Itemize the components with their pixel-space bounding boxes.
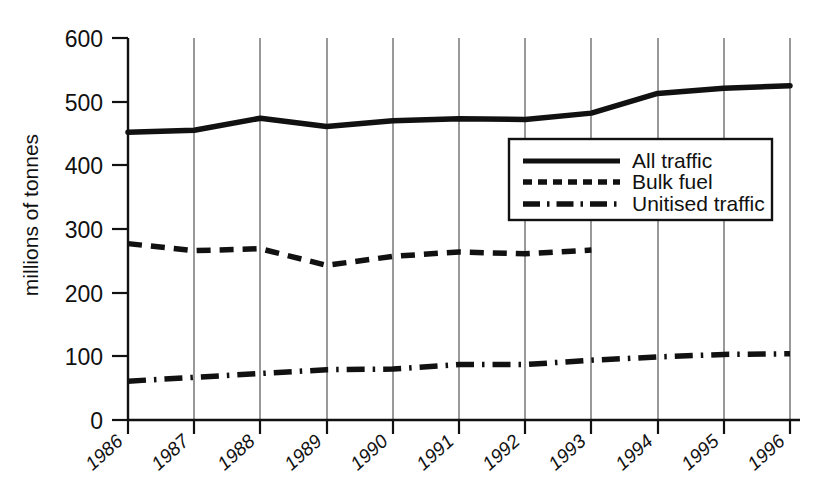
chart-canvas: 600 500 400 300 200 100 0 1986 1987 1 (0, 0, 825, 492)
x-tick-label-1993: 1993 (544, 430, 590, 474)
x-tick-labels: 1986 1987 1988 1989 1990 1991 1992 1993 … (81, 429, 789, 474)
x-tick-label-1988: 1988 (213, 430, 259, 474)
legend-label-all-traffic: All traffic (632, 149, 712, 172)
x-tick-marks (128, 420, 790, 434)
y-tick-label-0: 0 (90, 408, 103, 434)
x-tick-label-1996: 1996 (743, 430, 789, 474)
x-tick-label-1995: 1995 (677, 430, 723, 474)
x-tick-label-1987: 1987 (147, 429, 194, 474)
y-tick-label-600: 600 (65, 26, 103, 52)
y-tick-label-200: 200 (65, 281, 103, 307)
y-tick-label-100: 100 (65, 344, 103, 370)
legend[interactable]: All traffic Bulk fuel Unitised traffic (509, 139, 772, 220)
y-tick-marks (112, 38, 128, 420)
y-tick-label-500: 500 (65, 90, 103, 116)
y-tick-label-400: 400 (65, 153, 103, 179)
x-tick-label-1992: 1992 (478, 430, 524, 474)
y-tick-labels: 600 500 400 300 200 100 0 (65, 26, 103, 434)
x-tick-label-1990: 1990 (346, 430, 392, 474)
legend-label-bulk-fuel: Bulk fuel (632, 170, 713, 193)
x-tick-label-1989: 1989 (280, 430, 326, 474)
series-line-bulk-fuel (128, 244, 591, 266)
line-chart: millions of tonnes (0, 0, 825, 492)
x-tick-label-1986: 1986 (81, 430, 127, 474)
y-tick-label-300: 300 (65, 217, 103, 243)
x-tick-label-1994: 1994 (611, 430, 656, 474)
x-tick-label-1991: 1991 (412, 430, 457, 474)
legend-label-unitised-traffic: Unitised traffic (632, 192, 765, 215)
